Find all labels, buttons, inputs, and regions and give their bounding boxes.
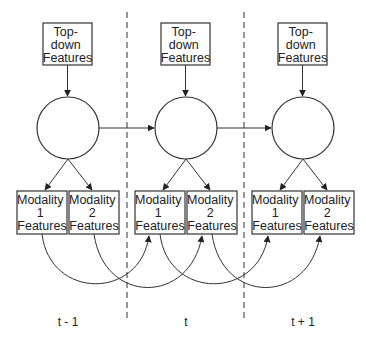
hidden-state-node <box>37 97 99 159</box>
top-down-label-line2: down <box>51 38 81 52</box>
top-down-label-line3: Features <box>43 51 92 65</box>
hidden-state-node <box>155 97 217 159</box>
slice-t-plus-1: Top- down Features Modality 1 Features M… <box>252 23 354 329</box>
time-label-t-plus-1: t + 1 <box>291 315 315 329</box>
modality-2-transition-edge <box>212 234 320 288</box>
hidden-state-node <box>272 97 334 159</box>
time-label-t-minus-1: t - 1 <box>58 315 79 329</box>
top-down-label-line1: Top- <box>54 25 78 39</box>
time-label-t: t <box>184 315 188 329</box>
diagram-canvas: Top- down Features Modality 1 Features M… <box>0 0 366 342</box>
modality-1-transition-edge <box>160 234 268 284</box>
